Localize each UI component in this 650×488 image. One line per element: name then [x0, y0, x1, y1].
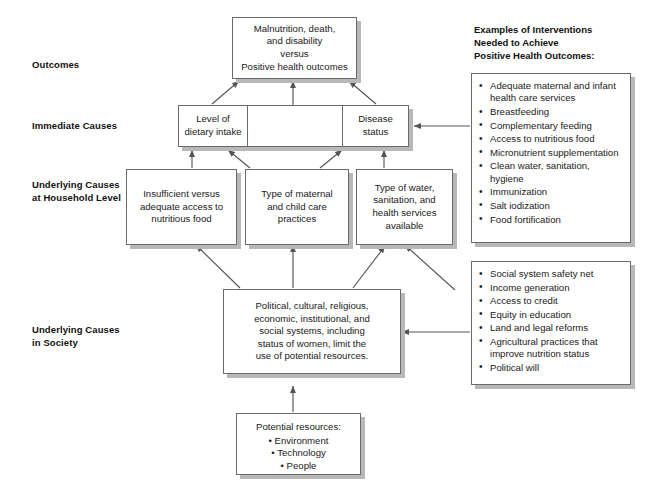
box-outcomes-line1: Malnutrition, death,: [241, 23, 348, 36]
box-outcomes-line3: versus: [241, 48, 348, 61]
arrow-society-to-water: [353, 246, 385, 288]
row-label-immediate-causes: Immediate Causes: [32, 119, 117, 132]
box-care-practices-line3: practices: [261, 213, 332, 226]
interventions-list: Adequate maternal and infant health care…: [476, 80, 624, 226]
list-item: Clean water, sanitation, hygiene: [488, 160, 624, 185]
list-item: Social system safety net: [488, 268, 624, 280]
arrow-disease-to-outcome: [349, 81, 376, 104]
list-item: Income generation: [488, 282, 624, 294]
box-disease-status-line1: Disease status: [346, 113, 405, 138]
list-item: Salt iodization: [488, 200, 624, 212]
box-water-health-services-line2: sanitation, and: [373, 194, 437, 207]
list-item: Adequate maternal and infant health care…: [488, 80, 624, 105]
box-societal-systems: Political, cultural, religious, economic…: [223, 289, 401, 374]
panel-society-interventions-list: Social system safety net Income generati…: [471, 261, 631, 385]
row-label-underlying-household: Underlying Causes at Household Level: [32, 178, 121, 204]
box-potential-resources-list: Environment Technology People: [245, 435, 352, 473]
box-disease-status-text: Disease status: [343, 113, 408, 138]
society-interventions-list: Social system safety net Income generati…: [476, 268, 624, 374]
list-item: Immunization: [488, 186, 624, 198]
box-dietary-intake-line2: dietary intake: [184, 126, 241, 139]
row-label-immediate-causes-text: Immediate Causes: [32, 120, 117, 131]
box-outcomes: Malnutrition, death, and disability vers…: [232, 17, 357, 79]
list-item: Complementary feeding: [488, 120, 624, 132]
box-potential-resources: Potential resources: Environment Technol…: [236, 413, 361, 475]
arrow-care-to-dietary: [228, 150, 250, 168]
box-societal-systems-text: Political, cultural, religious, economic…: [250, 300, 374, 363]
box-water-health-services-line1: Type of water,: [373, 182, 437, 195]
box-water-health-services-line3: health services: [373, 207, 437, 220]
box-water-health-services: Type of water, sanitation, and health se…: [356, 169, 453, 245]
box-food-access-text: Insufficient versus adequate access to n…: [136, 188, 227, 226]
box-dietary-intake: Level of dietary intake: [178, 105, 248, 147]
box-dietary-intake-line1: Level of: [184, 113, 241, 126]
box-care-practices: Type of maternal and child care practice…: [245, 169, 349, 245]
panel-title-interventions-line3: Positive Health Outcomes:: [474, 49, 644, 62]
arrow-care-to-disease: [320, 150, 342, 168]
list-item: Access to credit: [488, 295, 624, 307]
box-food-access-line1: Insufficient versus: [140, 188, 223, 201]
list-item: Food fortification: [488, 214, 624, 226]
box-care-practices-text: Type of maternal and child care practice…: [257, 188, 336, 226]
box-outcomes-text: Malnutrition, death, and disability vers…: [237, 23, 352, 73]
list-item: Political will: [488, 362, 624, 374]
box-water-health-services-text: Type of water, sanitation, and health se…: [369, 182, 441, 232]
box-food-access-line3: nutritious food: [140, 213, 223, 226]
list-item: People: [245, 460, 352, 473]
box-societal-systems-line2: economic, institutional, and: [254, 313, 370, 326]
nutrition-causal-framework-diagram: Outcomes Immediate Causes Underlying Cau…: [0, 0, 650, 488]
box-societal-systems-line5: use of potential resources.: [254, 350, 370, 363]
box-care-practices-line2: and child care: [261, 201, 332, 214]
row-label-underlying-household-line1: Underlying Causes: [32, 178, 121, 191]
panel-title-interventions: Examples of Interventions Needed to Achi…: [474, 23, 644, 62]
box-care-practices-line1: Type of maternal: [261, 188, 332, 201]
arrow-society-to-food: [196, 245, 240, 288]
list-item: Technology: [245, 447, 352, 460]
list-item: Micronutrient supplementation: [488, 147, 624, 159]
row-label-underlying-society-line2: in Society: [32, 336, 120, 349]
box-societal-systems-line1: Political, cultural, religious,: [254, 300, 370, 313]
list-item: Agricultural practices that improve nutr…: [488, 336, 624, 361]
box-food-access: Insufficient versus adequate access to n…: [126, 169, 237, 245]
row-label-underlying-society: Underlying Causes in Society: [32, 323, 120, 349]
box-societal-systems-line3: social systems, including: [254, 325, 370, 338]
arrow-dietary-to-outcome: [212, 81, 239, 104]
list-item: Equity in education: [488, 309, 624, 321]
box-dietary-intake-text: Level of dietary intake: [181, 113, 244, 138]
box-water-health-services-line4: available: [373, 220, 437, 233]
list-item: Land and legal reforms: [488, 322, 624, 334]
panel-title-interventions-line2: Needed to Achieve: [474, 36, 644, 49]
arrow-societypanel-to-water: [405, 245, 455, 290]
list-item: Environment: [245, 435, 352, 448]
box-disease-status: Disease status: [342, 105, 409, 147]
row-label-outcomes-text: Outcomes: [32, 59, 79, 70]
box-outcomes-line4: Positive health outcomes: [241, 61, 348, 74]
list-item: Breastfeeding: [488, 106, 624, 118]
panel-title-interventions-line1: Examples of Interventions: [474, 23, 644, 36]
row-label-underlying-household-line2: at Household Level: [32, 191, 121, 204]
list-item: Access to nutritious food: [488, 133, 624, 145]
box-potential-resources-title: Potential resources:: [245, 421, 352, 434]
box-outcomes-line2: and disability: [241, 35, 348, 48]
row-label-underlying-society-line1: Underlying Causes: [32, 323, 120, 336]
box-food-access-line2: adequate access to: [140, 201, 223, 214]
panel-interventions-list: Adequate maternal and infant health care…: [471, 73, 631, 243]
box-societal-systems-line4: status of women, limit the: [254, 338, 370, 351]
row-label-outcomes: Outcomes: [32, 58, 79, 71]
